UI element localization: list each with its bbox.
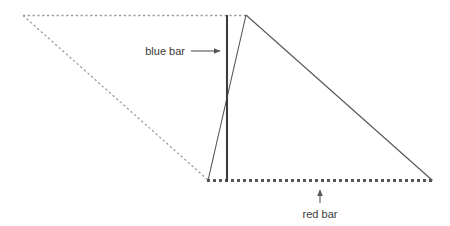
diagram-svg: blue bar red bar <box>0 0 450 226</box>
left-dotted-diagonal <box>23 16 208 181</box>
blue-bar-label: blue bar <box>145 45 185 57</box>
blue-bar-callout: blue bar <box>145 45 220 57</box>
triangle-right-edge <box>246 15 433 181</box>
red-bar-label: red bar <box>303 208 338 220</box>
dotted-parallelogram-outline <box>23 16 246 181</box>
diagram-canvas: blue bar red bar <box>0 0 450 226</box>
red-bar-callout: red bar <box>303 190 338 220</box>
solid-triangle <box>208 15 433 181</box>
